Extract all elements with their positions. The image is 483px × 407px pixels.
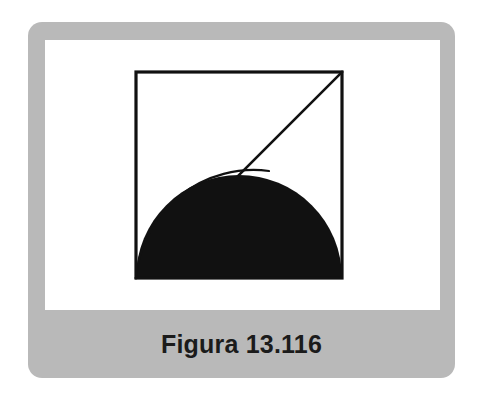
- geometry-figure: [45, 40, 440, 310]
- page-root: Figura 13.116: [0, 0, 483, 407]
- geometry-svg: [45, 40, 440, 310]
- figure-panel: [45, 40, 440, 310]
- figure-caption-label: Figura 13.116: [161, 332, 322, 357]
- figure-caption: Figura 13.116: [28, 310, 455, 378]
- figure-card: Figura 13.116: [28, 22, 455, 378]
